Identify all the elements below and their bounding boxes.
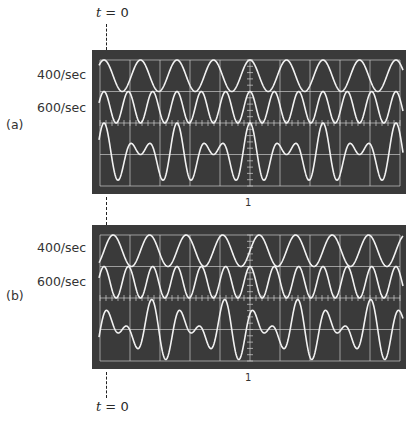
oscilloscope-screen-a (92, 50, 406, 194)
panel-b-center-marker: 1 (245, 372, 251, 383)
time-zero-label-top: t = 0 (96, 5, 129, 20)
panel-b-label-600: 600/sec (37, 274, 86, 289)
panel-b-label-400: 400/sec (37, 240, 86, 255)
time-zero-label-bottom: t = 0 (96, 399, 129, 414)
panel-a-label: (a) (6, 117, 23, 132)
panel-a-center-marker: 1 (245, 197, 251, 208)
oscilloscope-screen-b (92, 225, 406, 369)
panel-a-label-400: 400/sec (37, 67, 86, 82)
time-zero-marker-top (106, 24, 107, 50)
time-zero-marker-mid (106, 197, 107, 225)
panel-a-label-600: 600/sec (37, 100, 86, 115)
time-zero-marker-bottom (106, 372, 107, 398)
panel-b-label: (b) (6, 288, 24, 303)
